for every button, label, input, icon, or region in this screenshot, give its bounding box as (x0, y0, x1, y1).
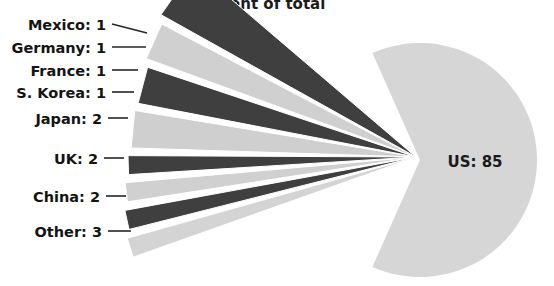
callout-labels-group: Mexico: 1 Germany: 1 France: 1 S. Korea:… (12, 17, 107, 240)
callout-label-china: China: 2 (33, 189, 100, 205)
leader-line-mexico (112, 24, 147, 33)
callout-label-mexico: Mexico: 1 (28, 17, 106, 33)
pie-chart-canvas: Percent of total (0, 0, 554, 286)
callout-label-japan: Japan: 2 (34, 111, 102, 127)
callout-label-uk: UK: 2 (54, 151, 98, 167)
slice-label-us: US: 85 (447, 153, 502, 171)
exploded-slices-group (125, 0, 416, 257)
callout-label-france: France: 1 (30, 63, 106, 79)
pie-chart-figure: Percent of total (0, 0, 554, 286)
callout-label-germany: Germany: 1 (12, 40, 107, 56)
callout-label-other: Other: 3 (34, 224, 102, 240)
callout-label-s-korea: S. Korea: 1 (16, 85, 106, 101)
